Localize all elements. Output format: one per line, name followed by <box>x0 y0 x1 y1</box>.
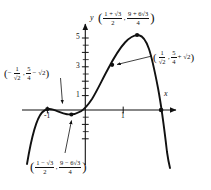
annotation-left-x-denominator: √2 <box>13 74 22 81</box>
annotation-bottom-x-numerator: 1 − √3 <box>35 160 54 168</box>
ytick-label-3: 3 <box>76 62 80 70</box>
annotation-absolute-maximum: ( 1 + √3 2 , 9 + 6√3 4 ) <box>98 11 155 26</box>
point-inflection <box>110 63 114 67</box>
leader-right-label <box>117 56 152 65</box>
ytick-label-5: 5 <box>76 33 80 41</box>
annotation-left-comma: , <box>22 70 25 77</box>
annotation-left-y-denominator: 4 <box>26 74 31 81</box>
annotation-local-maximum-left: ( − 1 √2 , 5 4 − √2 ) <box>4 66 49 81</box>
graph-figure: x y -1 1 1 3 5 ( 1 + √3 2 , 9 + 6√3 4 ) … <box>0 0 211 190</box>
xtick-label-1: 1 <box>121 112 125 120</box>
annotation-bottom-y-numerator: 9 − 6√3 <box>59 160 81 168</box>
annotation-top-y-denominator: 4 <box>136 19 141 26</box>
annotation-right-y-extra: + √2 <box>178 54 191 61</box>
annotation-right-comma: , <box>168 54 171 61</box>
x-axis-label: x <box>164 90 168 98</box>
leader-bottom-label <box>65 121 72 154</box>
point-local-minimum <box>69 112 73 116</box>
annotation-inflection-point: ( 1 √2 , 5 4 + √2 ) <box>153 50 194 65</box>
annotation-left-x-numerator: 1 <box>14 66 19 74</box>
annotation-local-minimum: ( 1 − √3 2 , 9 − 6√3 4 ) <box>30 160 87 175</box>
function-curve <box>27 35 170 168</box>
point-absolute-maximum <box>135 33 139 37</box>
annotation-top-y-numerator: 9 + 6√3 <box>127 11 149 19</box>
annotation-left-x-sign: − <box>8 70 12 77</box>
annotation-bottom-comma: , <box>55 164 58 171</box>
annotation-right-x-denominator: √2 <box>158 58 167 65</box>
y-axis <box>82 24 89 165</box>
annotation-right-x-numerator: 1 <box>159 50 164 58</box>
annotation-bottom-x-denominator: 2 <box>42 168 47 175</box>
point-x-intercept-right <box>159 108 164 113</box>
annotation-bottom-y-denominator: 4 <box>68 168 73 175</box>
leader-left-label <box>61 78 63 104</box>
ytick-label-1: 1 <box>76 91 80 99</box>
annotation-right-y-denominator: 4 <box>171 58 176 65</box>
annotation-left-y-extra: − √2 <box>32 70 45 77</box>
xtick-label-neg1: -1 <box>44 112 50 120</box>
annotation-top-x-numerator: 1 + √3 <box>103 11 122 19</box>
y-axis-label: y <box>90 14 94 22</box>
annotation-top-x-denominator: 2 <box>110 19 115 26</box>
annotation-right-y-numerator: 5 <box>171 50 176 58</box>
annotation-left-y-numerator: 5 <box>26 66 31 74</box>
annotation-top-comma: , <box>123 15 126 22</box>
